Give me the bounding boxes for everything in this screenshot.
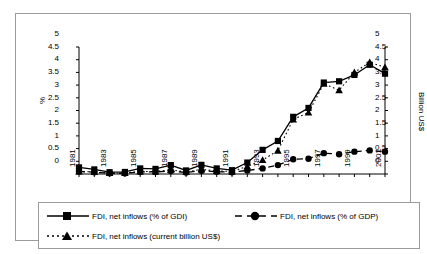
data-point-marker [367, 147, 373, 153]
chart-legend: FDI, net inflows (% of GDI) FDI, net inf… [38, 202, 420, 249]
data-point-marker [336, 78, 342, 84]
legend-label-usd: FDI, net inflows (current billion US$) [92, 232, 220, 241]
data-point-marker [260, 147, 266, 153]
legend-item-usd[interactable]: FDI, net inflows (current billion US$) [47, 229, 220, 243]
data-point-marker [275, 138, 281, 144]
data-point-marker [382, 71, 388, 77]
data-point-marker [274, 147, 282, 154]
legend-label-gdi: FDI, net inflows (% of GDI) [92, 212, 187, 221]
data-point-marker [381, 64, 389, 71]
legend-swatch-usd [47, 230, 89, 242]
legend-swatch-gdp [235, 210, 277, 222]
data-point-marker [275, 162, 281, 168]
legend-label-gdp: FDI, net inflows (% of GDP) [280, 212, 378, 221]
legend-item-gdp[interactable]: FDI, net inflows (% of GDP) [235, 209, 378, 223]
legend-item-gdi[interactable]: FDI, net inflows (% of GDI) [47, 209, 187, 223]
data-point-marker [382, 148, 388, 154]
data-point-marker [336, 151, 342, 157]
axis-lines [76, 47, 388, 177]
data-point-marker [335, 86, 343, 93]
chart-figure: % Billion US$ 00.511.522.533.544.5500.51… [0, 0, 427, 254]
data-point-marker [259, 165, 265, 171]
series-layer [75, 58, 389, 176]
legend-swatch-gdi [47, 210, 89, 222]
chart-frame: % Billion US$ 00.511.522.533.544.5500.51… [15, 13, 411, 241]
data-point-marker [290, 156, 296, 162]
data-point-marker [259, 156, 267, 163]
data-point-marker [351, 148, 357, 154]
data-point-marker [305, 156, 311, 162]
data-point-marker [321, 150, 327, 156]
